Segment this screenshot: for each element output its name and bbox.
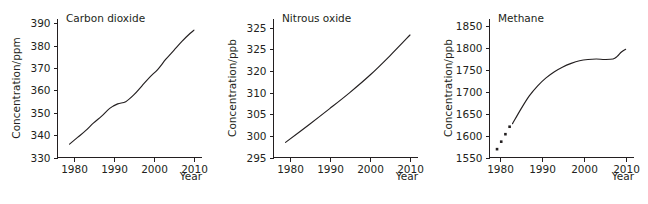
data-point-marker xyxy=(508,125,511,128)
plot-area-nitrous-oxide: 295300305310320325325 1980199020002010 xyxy=(246,19,423,175)
panel-methane: 1550160016501700175018001850 19801990200… xyxy=(432,0,648,204)
x-tick-label: 1980 xyxy=(61,163,88,175)
y-tick-label: 300 xyxy=(246,130,266,142)
panel-title-carbon-dioxide: Carbon dioxide xyxy=(66,12,145,24)
axis-lines xyxy=(274,19,419,158)
y-tick-label: 1850 xyxy=(456,20,483,32)
y-tick-label: 325 xyxy=(246,22,266,34)
y-tick-label: 380 xyxy=(30,40,50,52)
chart-methane: 1550160016501700175018001850 19801990200… xyxy=(432,0,648,204)
x-tick-label: 1990 xyxy=(317,163,344,175)
y-axis-title-methane: Concentration/ppb xyxy=(442,39,454,137)
data-series-line xyxy=(286,35,410,142)
x-tick-label: 1980 xyxy=(487,163,514,175)
y-tick-label: 295 xyxy=(246,152,266,164)
plot-area-methane: 1550160016501700175018001850 19801990200… xyxy=(456,19,640,175)
panel-title-methane: Methane xyxy=(498,12,544,24)
data-point-marker xyxy=(504,133,507,136)
x-tick-label: 2000 xyxy=(571,163,598,175)
chart-carbon-dioxide: 330340350360370380390 1980199020002010 C… xyxy=(0,0,216,204)
y-axis-ticks xyxy=(486,27,490,159)
data-series-line xyxy=(70,30,194,144)
x-axis-ticks xyxy=(291,158,411,162)
y-tick-label: 1800 xyxy=(456,42,483,54)
data-point-marker xyxy=(500,140,503,143)
y-tick-label: 370 xyxy=(30,62,50,74)
y-tick-label: 360 xyxy=(30,84,50,96)
axis-lines xyxy=(490,19,635,158)
x-tick-label: 1980 xyxy=(277,163,304,175)
y-tick-label: 390 xyxy=(30,17,50,29)
y-tick-label: 1600 xyxy=(456,130,483,142)
y-tick-label: 1550 xyxy=(456,152,483,164)
y-tick-label: 350 xyxy=(30,107,50,119)
x-axis-ticks xyxy=(75,158,195,162)
x-tick-label: 1990 xyxy=(101,163,128,175)
y-axis-ticks xyxy=(270,29,274,159)
panel-carbon-dioxide: 330340350360370380390 1980199020002010 C… xyxy=(0,0,216,204)
y-tick-label: 330 xyxy=(30,152,50,164)
y-tick-label: 340 xyxy=(30,129,50,141)
x-tick-label: 2000 xyxy=(357,163,384,175)
y-axis-tick-labels: 295300305310320325325 xyxy=(246,22,266,164)
panel-nitrous-oxide: 295300305310320325325 1980199020002010 N… xyxy=(216,0,432,204)
data-series-markers xyxy=(496,125,511,150)
y-tick-label: 1650 xyxy=(456,108,483,120)
y-axis-ticks xyxy=(54,24,58,159)
x-axis-title-carbon-dioxide: Year xyxy=(179,170,203,182)
y-tick-label: 1750 xyxy=(456,64,483,76)
y-tick-label: 325 xyxy=(246,43,266,55)
x-axis-ticks xyxy=(501,158,627,162)
data-point-marker xyxy=(496,148,499,151)
greenhouse-gas-figure: 330340350360370380390 1980199020002010 C… xyxy=(0,0,648,204)
y-axis-title-carbon-dioxide: Concentration/ppm xyxy=(10,37,22,138)
x-axis-title-methane: Year xyxy=(611,170,635,182)
chart-nitrous-oxide: 295300305310320325325 1980199020002010 N… xyxy=(216,0,432,204)
plot-area-carbon-dioxide: 330340350360370380390 1980199020002010 xyxy=(30,17,207,174)
x-tick-label: 1990 xyxy=(529,163,556,175)
y-axis-tick-labels: 1550160016501700175018001850 xyxy=(456,20,483,164)
y-axis-tick-labels: 330340350360370380390 xyxy=(30,17,50,164)
y-tick-label: 305 xyxy=(246,108,266,120)
y-axis-title-nitrous-oxide: Concentration/ppb xyxy=(226,39,238,137)
panel-title-nitrous-oxide: Nitrous oxide xyxy=(282,12,351,24)
x-axis-title-nitrous-oxide: Year xyxy=(395,170,419,182)
x-tick-label: 2000 xyxy=(141,163,168,175)
y-tick-label: 310 xyxy=(246,87,266,99)
data-series-line xyxy=(513,49,626,123)
y-tick-label: 320 xyxy=(246,65,266,77)
y-tick-label: 1700 xyxy=(456,86,483,98)
